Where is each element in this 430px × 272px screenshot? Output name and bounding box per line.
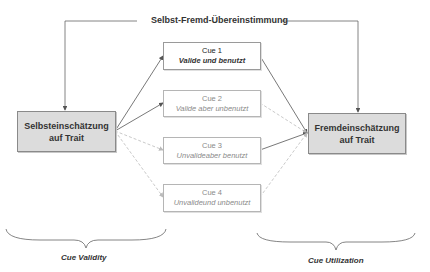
cue-1-label: Cue 1 [202,46,222,56]
other-node-line1: Fremdeinschätzung [314,122,399,134]
brace-right [257,233,415,250]
cue-2-label: Cue 2 [202,94,222,104]
arrow-self-cue2 [115,103,163,131]
self-node-line1: Selbsteinschätzung [24,120,109,132]
cue-3-desc: Unvalideaber benutzt [177,151,248,161]
cue-4-label: Cue 4 [202,188,222,198]
cue-1-desc: Valide und benutzt [179,56,245,66]
cue-3-box: Cue 3 Unvalideaber benutzt [163,137,261,164]
cue-4-desc: Unvalideund unbenutzt [174,198,251,208]
brace-left [6,229,166,248]
cue-4-box: Cue 4 Unvalideund unbenutzt [163,184,261,212]
arrow-cue1-other [260,56,307,133]
other-node-line2: auf Trait [339,134,374,146]
agreement-line-right [282,21,358,112]
cue-utilization-label: Cue Utilization [308,256,364,265]
arrow-cue4-other [260,133,307,197]
self-assessment-node: Selbsteinschätzung auf Trait [17,111,116,152]
cue-3-label: Cue 3 [202,141,222,151]
cue-2-box: Cue 2 Valide aber unbenutzt [163,90,261,117]
agreement-line-left [65,21,137,110]
arrow-cue3-other [260,133,307,150]
cue-2-desc: Valide aber unbenutzt [176,104,249,114]
diagram-title: Selbst-Fremd-Übereinstimmung [151,15,288,25]
cue-1-box: Cue 1 Valide und benutzt [163,42,261,70]
self-node-line2: auf Trait [49,132,84,144]
arrow-cue2-other [260,103,307,133]
other-assessment-node: Fremdeinschätzung auf Trait [308,113,406,154]
cue-validity-label: Cue Validity [61,253,107,262]
arrow-self-cue1 [115,56,163,131]
